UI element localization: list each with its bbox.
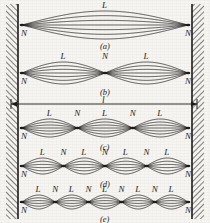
node-marker: [152, 201, 157, 203]
node-marker: [119, 201, 124, 203]
node-label-left: N: [21, 170, 27, 179]
node-marker: [130, 127, 135, 129]
node-label-right: N: [185, 170, 191, 179]
wall-hatching: [192, 4, 204, 219]
panel-b: [20, 62, 191, 84]
node-label-interior: N: [52, 185, 58, 194]
panel-d: [20, 158, 191, 174]
node-label-right: N: [185, 77, 191, 86]
panel-caption-a: (a): [100, 42, 110, 51]
loop-label: L: [61, 52, 66, 61]
standing-wave-figure: NNL(a)NNNLL(b)NNNNLLL(c)NNNNNLLLL(d)NNNN…: [0, 0, 210, 223]
node-marker: [186, 24, 191, 26]
loop-label: L: [36, 185, 41, 194]
node-label-interior: N: [85, 185, 91, 194]
loop-label: L: [102, 1, 107, 10]
loop-label: L: [164, 148, 169, 157]
loop-label: L: [157, 109, 162, 118]
node-label-interior: N: [102, 148, 108, 157]
node-label-interior: N: [130, 109, 136, 118]
node-marker: [103, 72, 108, 74]
node-marker: [20, 165, 25, 167]
wall-support-left: [6, 4, 18, 219]
node-marker: [144, 165, 149, 167]
panel-caption-e: (e): [100, 215, 109, 223]
node-label-right: N: [185, 206, 191, 215]
node-label-right: N: [185, 132, 191, 141]
node-label-right: N: [185, 29, 191, 38]
loop-label: L: [47, 109, 52, 118]
length-label: l: [102, 96, 105, 106]
node-marker: [20, 24, 25, 26]
loop-label: L: [168, 185, 173, 194]
node-label-interior: N: [144, 148, 150, 157]
node-label-interior: N: [152, 185, 158, 194]
loop-label: L: [102, 109, 107, 118]
wall-hatching: [6, 4, 18, 219]
node-label-left: N: [21, 77, 27, 86]
loop-label: L: [123, 148, 128, 157]
node-marker: [186, 165, 191, 167]
node-marker: [61, 165, 66, 167]
node-marker: [186, 72, 191, 74]
loop-label: L: [102, 185, 107, 194]
node-marker: [186, 127, 191, 129]
node-marker: [20, 127, 25, 129]
node-marker: [186, 201, 191, 203]
node-marker: [75, 127, 80, 129]
panel-a: [20, 11, 191, 39]
node-label-left: N: [21, 206, 27, 215]
node-label-interior: N: [74, 109, 80, 118]
wall-support-right: [192, 4, 204, 219]
node-marker: [86, 201, 91, 203]
loop-label: L: [40, 148, 45, 157]
node-label-left: N: [21, 29, 27, 38]
loop-label: L: [69, 185, 74, 194]
loop-label: L: [144, 52, 149, 61]
node-label-interior: N: [61, 148, 67, 157]
loop-label: L: [81, 148, 86, 157]
node-label-left: N: [21, 132, 27, 141]
panel-c: [20, 119, 191, 137]
node-marker: [20, 201, 25, 203]
node-marker: [53, 201, 58, 203]
panel-e: [20, 195, 191, 209]
node-label-interior: N: [102, 52, 108, 61]
node-label-interior: N: [119, 185, 125, 194]
node-marker: [103, 165, 108, 167]
node-marker: [20, 72, 25, 74]
loop-label: L: [135, 185, 140, 194]
